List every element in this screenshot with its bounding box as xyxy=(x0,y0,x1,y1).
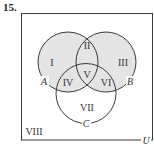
region-VIII-label: VIII xyxy=(25,126,42,137)
region-V-label: V xyxy=(83,69,91,80)
region-II-label: II xyxy=(84,40,91,51)
set-c-label: C xyxy=(83,118,90,129)
universe-label: U xyxy=(142,135,150,146)
venn-diagram: I II III IV V VI VII VIII A B C U xyxy=(0,0,154,155)
set-b-label: B xyxy=(127,76,133,87)
region-I-label: I xyxy=(50,57,53,68)
region-III-label: III xyxy=(118,57,128,68)
region-VII-label: VII xyxy=(80,102,94,113)
region-VI-label: VI xyxy=(101,77,112,88)
region-IV-label: IV xyxy=(63,77,74,88)
set-a-label: A xyxy=(40,76,48,87)
